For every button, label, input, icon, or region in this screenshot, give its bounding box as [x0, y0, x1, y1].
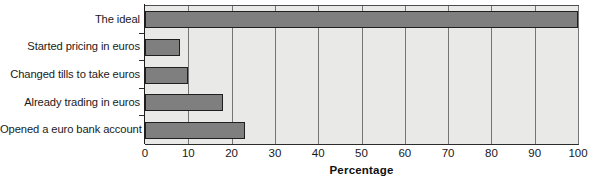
value-axis-spine — [144, 4, 145, 144]
x-tick-label: 0 — [142, 146, 148, 160]
x-tick-label: 30 — [268, 146, 281, 160]
bar-series — [145, 6, 578, 144]
x-tick-label: 10 — [182, 146, 195, 160]
x-tick-label: 80 — [485, 146, 498, 160]
x-tick-label: 20 — [225, 146, 238, 160]
x-axis-title: Percentage — [145, 164, 578, 176]
gridline — [578, 6, 579, 144]
category-label: Already trading in euros — [0, 96, 140, 108]
category-label: Opened a euro bank account — [0, 123, 140, 135]
category-label: Changed tills to take euros — [0, 68, 140, 80]
bar — [145, 122, 245, 139]
plot-area — [145, 5, 579, 145]
x-tick-label: 50 — [355, 146, 368, 160]
value-axis-tick-labels: 0102030405060708090100 — [0, 146, 602, 162]
x-tick-label: 70 — [442, 146, 455, 160]
x-tick-label: 60 — [398, 146, 411, 160]
bar — [145, 11, 578, 28]
bar-chart: The ideal Started pricing in euros Chang… — [0, 0, 602, 190]
category-axis-labels: The ideal Started pricing in euros Chang… — [0, 5, 143, 143]
category-label: The ideal — [0, 13, 140, 25]
category-label: Started pricing in euros — [0, 40, 140, 52]
x-tick-label: 90 — [528, 146, 541, 160]
bar — [145, 94, 223, 111]
bar — [145, 39, 180, 56]
x-tick-label: 100 — [568, 146, 587, 160]
bar — [145, 67, 188, 84]
x-tick-label: 40 — [312, 146, 325, 160]
